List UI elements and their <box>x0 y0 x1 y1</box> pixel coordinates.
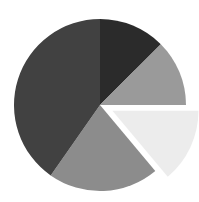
pie-chart-canvas <box>0 0 199 202</box>
pie-chart-figure <box>0 0 199 202</box>
